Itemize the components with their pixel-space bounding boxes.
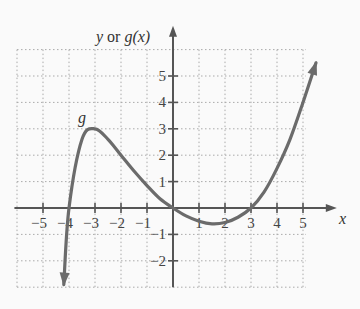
y-tick-label: −2 bbox=[150, 253, 166, 269]
y-tick-label: −1 bbox=[150, 226, 166, 242]
x-tick-label: 3 bbox=[247, 215, 255, 231]
curve-arrow-end-icon bbox=[308, 61, 318, 76]
tick-labels: −5−4−3−2−11234554321−1−2 bbox=[31, 68, 307, 269]
axes bbox=[14, 26, 336, 287]
x-tick-label: −2 bbox=[109, 215, 125, 231]
function-graph: −5−4−3−2−11234554321−1−2 g y or g(x) x bbox=[0, 0, 360, 309]
grid bbox=[17, 50, 306, 288]
y-axis-title-paren: (x) bbox=[132, 28, 150, 46]
y-axis-title-or: or bbox=[103, 28, 124, 45]
x-tick-label: −5 bbox=[31, 215, 47, 231]
y-axis-title-g: g bbox=[124, 28, 132, 46]
y-tick-label: 1 bbox=[159, 174, 167, 190]
x-axis-title: x bbox=[338, 210, 346, 227]
x-tick-label: 4 bbox=[273, 215, 281, 231]
y-tick-label: 2 bbox=[159, 147, 167, 163]
x-tick-label: −3 bbox=[83, 215, 99, 231]
y-axis-title: y or g(x) bbox=[94, 28, 150, 46]
curve-label-g: g bbox=[78, 109, 86, 127]
x-axis-arrow-icon bbox=[326, 204, 337, 212]
x-tick-label: 5 bbox=[299, 215, 307, 231]
curve-arrowheads bbox=[60, 61, 317, 287]
y-tick-label: 3 bbox=[159, 121, 167, 137]
curve-g bbox=[64, 63, 316, 285]
x-tick-label: −4 bbox=[57, 215, 73, 231]
y-tick-label: 4 bbox=[159, 94, 167, 110]
y-axis-arrow-icon bbox=[169, 26, 177, 37]
y-tick-label: 5 bbox=[159, 68, 167, 84]
x-tick-label: −1 bbox=[135, 215, 151, 231]
